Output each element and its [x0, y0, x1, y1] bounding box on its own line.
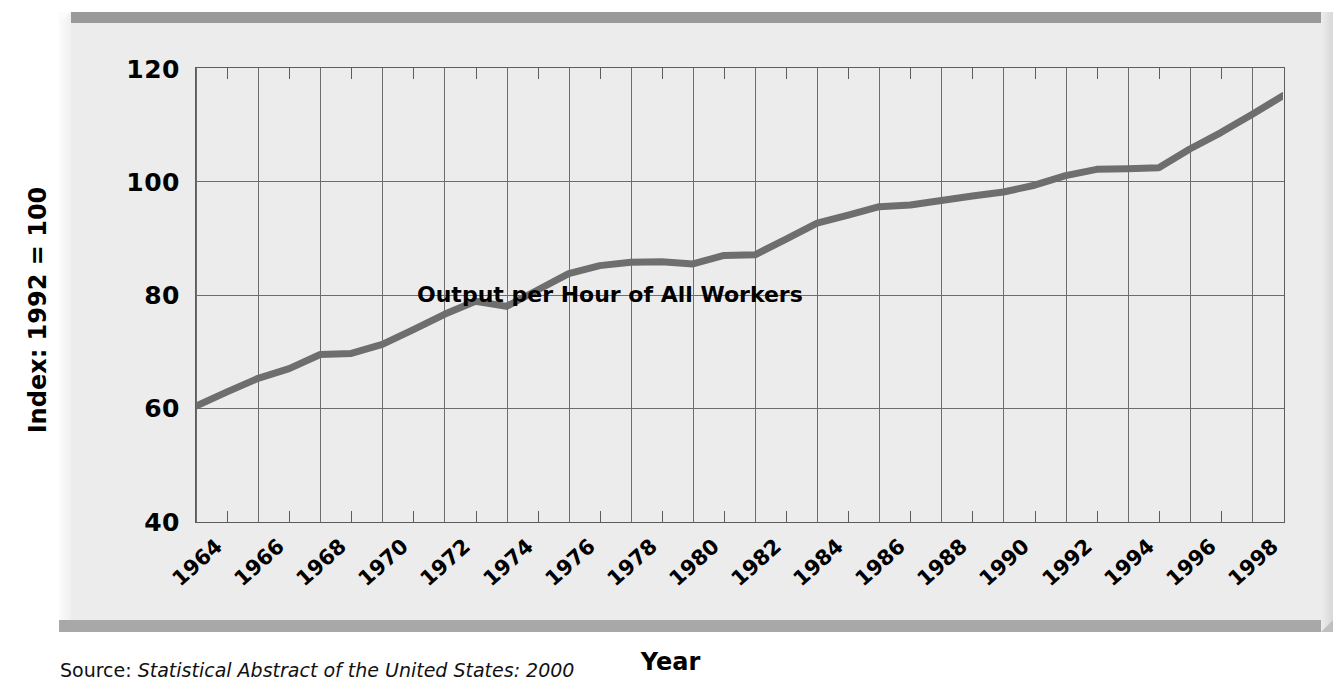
- minor-tick-top-1977: [600, 68, 601, 79]
- x-tick-label-1988: 1988: [913, 534, 972, 591]
- x-tick-label-1986: 1986: [851, 534, 910, 591]
- minor-tick-top-1967: [289, 68, 290, 79]
- x-tick-label-1998: 1998: [1223, 534, 1282, 591]
- minor-tick-top-1983: [786, 68, 787, 79]
- minor-tick-bottom-1993: [1097, 511, 1098, 522]
- source-publication-title: Statistical Abstract of the United State…: [138, 659, 575, 681]
- x-axis-tick-labels: 1964196619681970197219741976197819801982…: [0, 534, 1341, 624]
- x-tick-label-1982: 1982: [727, 534, 786, 591]
- source-prefix: Source:: [60, 659, 138, 681]
- minor-tick-top-1969: [351, 68, 352, 79]
- minor-tick-bottom-1987: [910, 511, 911, 522]
- x-tick-label-1984: 1984: [789, 534, 848, 591]
- minor-tick-top-1987: [910, 68, 911, 79]
- gridline-h-60: [196, 408, 1284, 409]
- line-chart: Index: 1992 = 100 120100806040 Output pe…: [0, 0, 1341, 696]
- y-axis-title: Index: 1992 = 100: [24, 180, 52, 440]
- y-tick-label-80: 80: [144, 281, 180, 310]
- x-tick-label-1970: 1970: [354, 534, 413, 591]
- minor-tick-bottom-1967: [289, 511, 290, 522]
- minor-tick-top-1991: [1035, 68, 1036, 79]
- minor-tick-bottom-1997: [1221, 511, 1222, 522]
- minor-tick-top-1971: [413, 68, 414, 79]
- x-tick-label-1978: 1978: [602, 534, 661, 591]
- x-tick-label-1964: 1964: [168, 534, 227, 591]
- series-annotation-label: Output per Hour of All Workers: [417, 282, 803, 307]
- y-tick-label-100: 100: [126, 167, 180, 196]
- x-tick-label-1996: 1996: [1161, 534, 1220, 591]
- minor-tick-top-1975: [538, 68, 539, 79]
- minor-tick-bottom-1979: [662, 511, 663, 522]
- source-note: Source: Statistical Abstract of the Unit…: [60, 659, 574, 681]
- minor-tick-bottom-1977: [600, 511, 601, 522]
- x-tick-label-1974: 1974: [478, 534, 537, 591]
- x-tick-label-1990: 1990: [975, 534, 1034, 591]
- minor-tick-top-1979: [662, 68, 663, 79]
- x-tick-label-1968: 1968: [292, 534, 351, 591]
- minor-tick-bottom-1983: [786, 511, 787, 522]
- y-tick-label-120: 120: [126, 54, 180, 83]
- y-tick-label-60: 60: [144, 394, 180, 423]
- minor-tick-top-1973: [476, 68, 477, 79]
- minor-tick-bottom-1973: [476, 511, 477, 522]
- minor-tick-top-1995: [1159, 68, 1160, 79]
- x-tick-label-1966: 1966: [230, 534, 289, 591]
- plot-area: Output per Hour of All Workers: [195, 67, 1285, 523]
- minor-tick-bottom-1985: [848, 511, 849, 522]
- minor-tick-bottom-1969: [351, 511, 352, 522]
- minor-tick-top-1985: [848, 68, 849, 79]
- minor-tick-bottom-1975: [538, 511, 539, 522]
- minor-tick-bottom-1989: [972, 511, 973, 522]
- minor-tick-top-1981: [724, 68, 725, 79]
- x-tick-label-1994: 1994: [1099, 534, 1158, 591]
- minor-tick-bottom-1971: [413, 511, 414, 522]
- y-tick-label-40: 40: [144, 507, 180, 536]
- minor-tick-bottom-1995: [1159, 511, 1160, 522]
- minor-tick-bottom-1965: [227, 511, 228, 522]
- minor-tick-top-1965: [227, 68, 228, 79]
- x-tick-label-1972: 1972: [416, 534, 475, 591]
- x-tick-label-1976: 1976: [540, 534, 599, 591]
- x-tick-label-1980: 1980: [664, 534, 723, 591]
- minor-tick-top-1989: [972, 68, 973, 79]
- minor-tick-bottom-1991: [1035, 511, 1036, 522]
- minor-tick-top-1993: [1097, 68, 1098, 79]
- gridline-h-100: [196, 181, 1284, 182]
- minor-tick-top-1997: [1221, 68, 1222, 79]
- minor-tick-bottom-1981: [724, 511, 725, 522]
- x-tick-label-1992: 1992: [1037, 534, 1096, 591]
